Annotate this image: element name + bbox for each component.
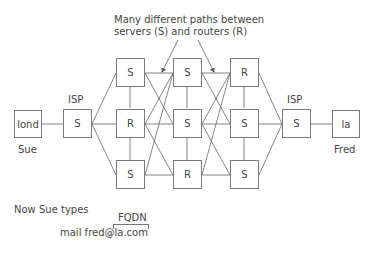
endpoint-sue-name: Sue xyxy=(18,144,37,155)
node-col2-row1: S xyxy=(173,58,202,87)
diagram-caption: Many different paths between servers (S)… xyxy=(114,14,264,38)
node-label: R xyxy=(127,118,134,129)
node-label: R xyxy=(241,67,248,78)
node-label: S xyxy=(184,118,190,129)
node-col1-row1: S xyxy=(116,58,145,87)
isp-left-server-label: S xyxy=(74,118,80,129)
mail-command-text: mail fred@la.com xyxy=(60,227,148,238)
node-label: S xyxy=(241,118,247,129)
fqdn-label: FQDN xyxy=(118,212,147,223)
node-label: S xyxy=(127,67,133,78)
node-col3-row2: S xyxy=(230,109,259,138)
node-col2-row2: S xyxy=(173,109,202,138)
node-label: S xyxy=(127,169,133,180)
now-sue-types-text: Now Sue types xyxy=(14,204,89,215)
endpoint-fred-name: Fred xyxy=(334,144,355,155)
endpoint-la-box: la xyxy=(332,110,360,138)
node-label: R xyxy=(184,169,191,180)
isp-right-server: S xyxy=(282,109,311,138)
endpoint-lond-label: lond xyxy=(17,119,39,130)
caption-line-1: Many different paths between xyxy=(114,14,264,26)
node-col3-row3: S xyxy=(230,160,259,189)
node-label: S xyxy=(184,67,190,78)
isp-right-label: ISP xyxy=(287,94,302,105)
node-label: S xyxy=(241,169,247,180)
node-col3-row1: R xyxy=(230,58,259,87)
node-col1-row2: R xyxy=(116,109,145,138)
caption-line-2: servers (S) and routers (R) xyxy=(114,26,264,38)
isp-right-server-label: S xyxy=(293,118,299,129)
isp-left-server: S xyxy=(63,109,92,138)
node-col1-row3: S xyxy=(116,160,145,189)
isp-left-label: ISP xyxy=(68,94,83,105)
endpoint-lond-box: lond xyxy=(14,110,42,138)
endpoint-la-label: la xyxy=(342,119,351,130)
network-diagram: Many different paths between servers (S)… xyxy=(0,0,373,254)
node-col2-row3: R xyxy=(173,160,202,189)
